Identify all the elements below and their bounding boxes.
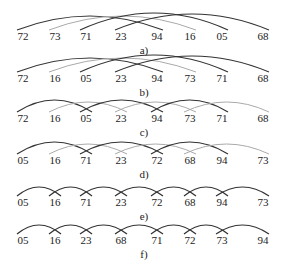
value-label: 16 xyxy=(185,30,197,42)
value-label: 72 xyxy=(152,196,163,208)
arc xyxy=(115,144,196,154)
step-caption: f) xyxy=(140,248,148,261)
value-label: 16 xyxy=(50,112,62,124)
value-label: 68 xyxy=(185,154,197,166)
value-label: 05 xyxy=(18,196,30,208)
arc xyxy=(49,58,196,72)
arc xyxy=(216,187,269,196)
arc xyxy=(115,102,196,112)
value-label: 71 xyxy=(152,234,163,246)
arc xyxy=(115,225,163,234)
step-caption: e) xyxy=(140,210,149,223)
value-label: 05 xyxy=(18,154,30,166)
value-label: 68 xyxy=(116,234,128,246)
value-label: 16 xyxy=(50,154,62,166)
value-label: 68 xyxy=(258,30,270,42)
value-label: 16 xyxy=(50,196,62,208)
arc xyxy=(17,142,92,154)
value-label: 71 xyxy=(217,112,228,124)
row-e: 0516712372689473e) xyxy=(17,187,269,223)
arc xyxy=(17,16,163,30)
value-label: 73 xyxy=(258,154,270,166)
value-label: 72 xyxy=(185,234,196,246)
arc xyxy=(80,55,228,72)
value-label: 94 xyxy=(217,196,229,208)
step-caption: d) xyxy=(139,168,149,181)
arc xyxy=(151,225,196,234)
arc xyxy=(17,58,163,72)
value-label: 05 xyxy=(217,30,229,42)
value-label: 23 xyxy=(116,112,128,124)
arc xyxy=(80,13,228,30)
arc xyxy=(80,187,127,196)
value-label: 94 xyxy=(217,154,229,166)
value-label: 94 xyxy=(258,234,270,246)
value-label: 73 xyxy=(185,72,197,84)
value-label: 05 xyxy=(81,112,93,124)
value-label: 23 xyxy=(116,30,128,42)
value-label: 16 xyxy=(50,234,62,246)
arc xyxy=(49,144,127,154)
arc xyxy=(115,187,163,196)
arc xyxy=(80,225,127,234)
arc xyxy=(49,102,127,112)
value-label: 94 xyxy=(152,112,164,124)
value-label: 23 xyxy=(116,196,128,208)
row-c: 7216052394737168c) xyxy=(17,100,269,139)
value-label: 68 xyxy=(258,112,270,124)
row-b: 7216052394737168b) xyxy=(17,55,269,99)
value-label: 72 xyxy=(18,72,29,84)
value-label: 73 xyxy=(50,30,62,42)
value-label: 71 xyxy=(81,30,92,42)
arc xyxy=(151,187,196,196)
value-label: 73 xyxy=(185,112,197,124)
arc xyxy=(184,225,228,234)
row-f: 0516236871727394f) xyxy=(17,225,269,261)
value-label: 94 xyxy=(152,30,164,42)
value-label: 73 xyxy=(217,234,229,246)
row-a: 7273712394160568a) xyxy=(17,13,269,57)
value-label: 72 xyxy=(18,30,29,42)
value-label: 71 xyxy=(217,72,228,84)
arc xyxy=(49,16,196,30)
arc xyxy=(17,100,92,112)
arc xyxy=(49,187,92,196)
value-label: 73 xyxy=(258,196,270,208)
value-label: 71 xyxy=(81,154,92,166)
value-label: 94 xyxy=(152,72,164,84)
value-label: 68 xyxy=(258,72,270,84)
value-label: 71 xyxy=(81,196,92,208)
arc xyxy=(216,225,269,234)
arc xyxy=(49,225,92,234)
step-caption: b) xyxy=(139,86,149,99)
row-d: 0516712372689473d) xyxy=(17,142,269,181)
value-label: 23 xyxy=(81,234,93,246)
value-label: 23 xyxy=(116,72,128,84)
step-caption: c) xyxy=(140,126,149,139)
value-label: 05 xyxy=(18,234,30,246)
value-label: 72 xyxy=(18,112,29,124)
shell-sort-diagram: 7273712394160568a)7216052394737168b)7216… xyxy=(0,0,289,275)
value-label: 05 xyxy=(81,72,93,84)
value-label: 68 xyxy=(185,196,197,208)
value-label: 16 xyxy=(50,72,62,84)
value-label: 72 xyxy=(152,154,163,166)
arc xyxy=(184,187,228,196)
value-label: 23 xyxy=(116,154,128,166)
